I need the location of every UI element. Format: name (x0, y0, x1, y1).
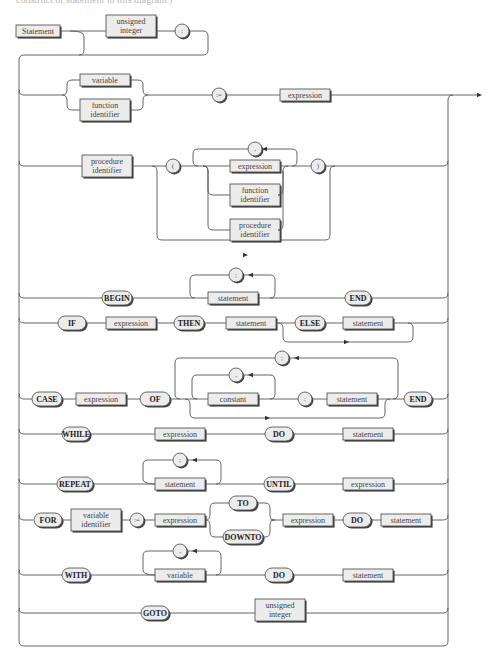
compound-statement-box: statement (208, 292, 260, 306)
connector-line (19, 318, 58, 323)
if-expression-box: expression (106, 317, 158, 331)
terminal-label: THEN (178, 319, 201, 328)
box-label: statement (391, 516, 422, 525)
connector-line (203, 166, 230, 195)
box-label: variable (92, 76, 118, 85)
connector-line (19, 570, 62, 575)
connector-line (19, 60, 448, 646)
symbol-label: , (179, 547, 181, 555)
terminal-label: BEGIN (104, 294, 130, 303)
box-label: statement (353, 319, 384, 328)
for-statement-box: statement (381, 514, 433, 528)
terminal-label: CASE (36, 395, 57, 404)
with-comma-symbol: , (173, 544, 188, 559)
else-keyword: ELSE (295, 316, 327, 332)
lparen-symbol: ( (166, 159, 181, 174)
box-label: identifier (92, 166, 122, 175)
terminal-label: UNTIL (266, 480, 291, 489)
repeat-statement-box: statement (155, 478, 207, 492)
box-label: expression (163, 430, 197, 439)
connector-line (257, 503, 275, 520)
label-unsigned-integer-box: unsignedinteger (106, 15, 158, 39)
to-keyword: TO (229, 496, 259, 512)
then-keyword: THEN (174, 316, 206, 332)
case-end-keyword: END (404, 392, 434, 408)
terminal-label: END (410, 395, 427, 404)
terminal-label: DO (351, 516, 363, 525)
terminal-label: GOTO (143, 609, 167, 618)
box-label: unsigned (117, 17, 146, 26)
case-colon-symbol: : (298, 392, 313, 407)
terminal-label: IF (68, 319, 76, 328)
terminal-label: DOWNTO (224, 533, 261, 542)
connector-line (62, 95, 80, 110)
rparen-symbol: ) (311, 159, 326, 174)
box-label: constant (220, 395, 247, 404)
loop-arrow-icon (248, 373, 253, 377)
param-function-identifier-box: functionidentifier (230, 184, 282, 208)
connector-line (19, 515, 33, 520)
goto-keyword: GOTO (141, 606, 171, 622)
symbol-label: := (134, 516, 140, 524)
box-label: function (92, 101, 119, 110)
assignment-expression-box: expression (280, 89, 332, 103)
symbol-label: := (216, 91, 222, 99)
case-comma-symbol: , (229, 368, 244, 383)
terminal-label: DO (273, 430, 285, 439)
while-expression-box: expression (155, 428, 207, 442)
param-procedure-identifier-box: procedureidentifier (230, 219, 282, 243)
for-keyword: FOR (34, 513, 64, 529)
case-semicolon-symbol: ; (275, 351, 290, 366)
box-label: procedure (239, 221, 271, 230)
connector-line (19, 608, 141, 613)
terminal-label: TO (237, 499, 248, 508)
with-variable-box: variable (155, 569, 207, 583)
for-variable-identifier-box: variableidentifier (71, 509, 123, 533)
bypass-arrow-icon (243, 253, 248, 257)
box-label: expression (351, 480, 385, 489)
case-expression-box: expression (76, 393, 128, 407)
box-label: identifier (90, 110, 120, 119)
box-label: variable (167, 571, 193, 580)
repeat-keyword: REPEAT (57, 477, 95, 493)
terminal-label: WITH (65, 571, 88, 580)
box-label: procedure (91, 157, 123, 166)
box-label: expression (291, 516, 325, 525)
terminal-label: ELSE (300, 319, 320, 328)
symbol-label: , (254, 145, 256, 153)
connector-line (305, 608, 448, 613)
symbol-label: ; (235, 271, 237, 279)
connector-line (325, 161, 448, 166)
terminal-label: FOR (40, 516, 57, 525)
connector-line (393, 429, 448, 434)
connector-line (19, 429, 62, 434)
box-label: Statement (22, 27, 55, 36)
box-label: statement (218, 294, 249, 303)
connector-line (205, 520, 224, 537)
case-keyword: CASE (32, 392, 64, 408)
terminal-label: DO (273, 571, 285, 580)
symbol-label: , (235, 371, 237, 379)
while-do-keyword: DO (265, 427, 295, 443)
connector-line (448, 95, 453, 100)
compound-semicolon-symbol: ; (229, 268, 244, 283)
begin-keyword: BEGIN (102, 291, 134, 307)
then-statement-box: statement (226, 317, 278, 331)
connector-line (408, 318, 448, 323)
loop-arrow-icon (192, 549, 197, 553)
with-keyword: WITH (62, 568, 92, 584)
connector-line (432, 394, 448, 399)
box-label: statement (337, 395, 368, 404)
param-comma-symbol: , (248, 142, 263, 157)
repeat-semicolon-symbol: ; (173, 453, 188, 468)
connector-line (19, 479, 57, 484)
box-label: expression (238, 162, 272, 171)
loop-arrow-icon (192, 458, 197, 462)
symbol-label: : (181, 27, 183, 35)
bypass-arrow-icon (344, 340, 349, 344)
while-keyword: WHILE (62, 427, 92, 443)
box-label: identifier (240, 230, 270, 239)
box-label: integer (120, 26, 143, 35)
for-assign-symbol: := (130, 513, 145, 528)
statement-syntax-diagram: Statementunsignedinteger:variablefunctio… (0, 0, 490, 651)
